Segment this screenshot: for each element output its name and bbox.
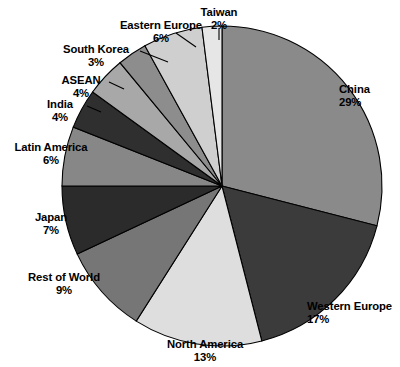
slice-label-japan-name: Japan bbox=[20, 211, 82, 224]
slice-label-western-europe-name: Western Europe bbox=[307, 300, 392, 313]
slice-label-south-korea-pct: 3% bbox=[54, 56, 138, 69]
slice-label-western-europe-pct: 17% bbox=[307, 313, 392, 326]
slice-label-china-pct: 29% bbox=[339, 96, 370, 109]
pie-chart: China 29% Western Europe 17% North Ameri… bbox=[0, 0, 400, 367]
slice-label-south-korea: South Korea 3% bbox=[54, 43, 138, 68]
slice-label-north-america-pct: 13% bbox=[150, 351, 260, 364]
slice-label-western-europe: Western Europe 17% bbox=[307, 300, 392, 325]
slice-label-india: India 4% bbox=[37, 98, 83, 123]
slice-label-japan: Japan 7% bbox=[20, 211, 82, 236]
slice-label-south-korea-name: South Korea bbox=[54, 43, 138, 56]
pie-slices-group bbox=[62, 26, 382, 346]
slice-label-latin-america-name: Latin America bbox=[5, 141, 97, 154]
slice-label-north-america: North America 13% bbox=[150, 338, 260, 363]
slice-label-china: China 29% bbox=[339, 83, 370, 108]
slice-label-eastern-europe-pct: 6% bbox=[112, 32, 210, 45]
slice-label-rest-of-world-pct: 9% bbox=[16, 284, 112, 297]
slice-label-asean-name: ASEAN bbox=[55, 74, 107, 87]
slice-label-taiwan: Taiwan 2% bbox=[192, 6, 246, 31]
slice-label-india-pct: 4% bbox=[37, 111, 83, 124]
slice-label-asean-pct: 4% bbox=[55, 87, 107, 100]
slice-label-latin-america-pct: 6% bbox=[5, 154, 97, 167]
slice-label-china-name: China bbox=[339, 83, 370, 96]
slice-label-rest-of-world: Rest of World 9% bbox=[16, 271, 112, 296]
slice-label-latin-america: Latin America 6% bbox=[5, 141, 97, 166]
slice-label-taiwan-pct: 2% bbox=[192, 19, 246, 32]
slice-label-north-america-name: North America bbox=[150, 338, 260, 351]
slice-label-rest-of-world-name: Rest of World bbox=[16, 271, 112, 284]
slice-label-japan-pct: 7% bbox=[20, 224, 82, 237]
slice-label-india-name: India bbox=[37, 98, 83, 111]
slice-label-taiwan-name: Taiwan bbox=[192, 6, 246, 19]
slice-label-asean: ASEAN 4% bbox=[55, 74, 107, 99]
